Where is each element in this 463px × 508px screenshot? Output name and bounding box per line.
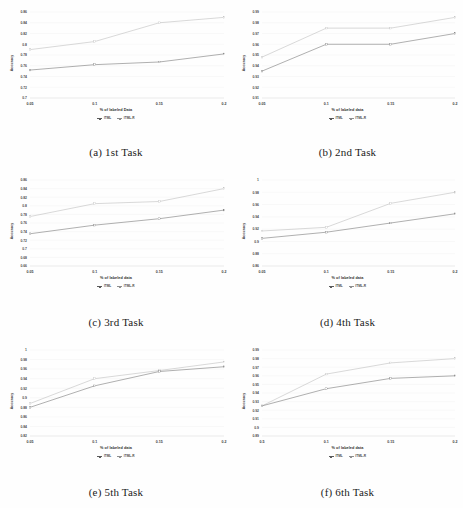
legend-item-itml-r: ITML-R xyxy=(349,284,366,288)
x-tick-label: 0.2 xyxy=(222,102,227,106)
x-axis-label: % of labeled Data xyxy=(0,108,232,112)
series-line-itml-r xyxy=(30,362,224,404)
data-point-marker xyxy=(390,362,392,364)
legend-item-itml-r: ITML-R xyxy=(117,284,134,288)
data-point-marker xyxy=(158,371,160,373)
legend-label: ITML-R xyxy=(124,454,135,458)
data-point-marker xyxy=(261,70,263,72)
x-axis-label: % of labeled data xyxy=(232,108,463,112)
y-tick-label: 0.68 xyxy=(20,256,27,260)
panel-caption: (f) 6th Task xyxy=(232,486,463,498)
legend-label: ITML-R xyxy=(355,284,366,288)
data-point-marker xyxy=(29,216,31,218)
data-point-marker xyxy=(94,378,96,380)
legend-item-itml: ITML xyxy=(329,116,343,120)
x-tick-label: 0.2 xyxy=(222,270,227,274)
x-tick-label: 0.15 xyxy=(387,102,394,106)
x-axis-label: % of labeled data xyxy=(232,276,463,280)
data-point-marker xyxy=(325,27,327,29)
chart-panel-e: 0.820.840.860.880.90.920.940.960.9810.05… xyxy=(0,338,232,508)
x-tick-label: 0.15 xyxy=(156,270,163,274)
y-axis-label: Accuracy xyxy=(242,223,246,239)
y-tick-label: 0.84 xyxy=(20,425,27,429)
x-tick-label: 0.2 xyxy=(453,102,458,106)
legend-swatch-icon xyxy=(117,286,122,287)
x-tick-label: 0.5 xyxy=(260,440,265,444)
y-tick-label: 0.8 xyxy=(22,43,27,47)
series-line-itml-r xyxy=(30,189,224,217)
x-tick-label: 0.05 xyxy=(27,102,34,106)
y-tick-label: 1 xyxy=(25,348,27,352)
chart-legend: ITMLITML-R xyxy=(0,454,232,458)
data-point-marker xyxy=(29,69,31,71)
chart-legend: ITMLITML-R xyxy=(232,116,463,120)
legend-label: ITML-R xyxy=(355,116,366,120)
y-tick-label: 0.94 xyxy=(252,391,259,395)
legend-item-itml: ITML xyxy=(329,284,343,288)
y-tick-label: 0.72 xyxy=(20,86,27,90)
legend-label: ITML xyxy=(104,116,111,120)
data-point-marker xyxy=(29,403,31,405)
x-tick-label: 0.1 xyxy=(324,440,329,444)
legend-item-itml-r: ITML-R xyxy=(117,454,134,458)
data-point-marker xyxy=(390,202,392,204)
legend-label: ITML xyxy=(335,116,342,120)
data-point-marker xyxy=(454,33,456,35)
y-tick-label: 1 xyxy=(257,178,259,182)
x-tick-label: 0.05 xyxy=(259,270,266,274)
legend-item-itml: ITML xyxy=(97,454,111,458)
y-tick-label: 0.99 xyxy=(252,10,259,14)
data-point-marker xyxy=(325,226,327,228)
x-tick-label: 0.1 xyxy=(92,102,97,106)
series-line-itml xyxy=(30,367,224,408)
y-tick-label: 0.95 xyxy=(252,383,259,387)
data-point-marker xyxy=(29,49,31,51)
legend-label: ITML xyxy=(104,284,111,288)
data-point-marker xyxy=(158,22,160,24)
legend-swatch-icon xyxy=(349,286,354,287)
chart-legend: ITMLITML-R xyxy=(232,284,463,288)
y-tick-label: 0.84 xyxy=(20,187,27,191)
data-point-marker xyxy=(390,27,392,29)
y-tick-label: 0.92 xyxy=(252,227,259,231)
data-point-marker xyxy=(158,61,160,63)
x-tick-label: 0.2 xyxy=(222,440,227,444)
data-point-marker xyxy=(29,233,31,235)
y-tick-label: 0.86 xyxy=(20,10,27,14)
plot-area: 0.860.880.90.920.940.960.9810.050.10.150… xyxy=(232,172,463,290)
legend-swatch-icon xyxy=(329,286,334,287)
y-tick-label: 0.94 xyxy=(20,377,27,381)
y-axis-label: Accuracy xyxy=(242,393,246,409)
y-tick-label: 0.92 xyxy=(252,409,259,413)
data-point-marker xyxy=(261,405,263,407)
legend-swatch-icon xyxy=(329,456,334,457)
legend-swatch-icon xyxy=(329,118,334,119)
y-tick-label: 0.98 xyxy=(252,357,259,361)
y-tick-label: 0.96 xyxy=(252,374,259,378)
data-point-marker xyxy=(223,366,225,368)
legend-item-itml: ITML xyxy=(97,284,111,288)
y-tick-label: 0.82 xyxy=(20,196,27,200)
legend-label: ITML-R xyxy=(355,454,366,458)
y-axis-label: Accuracy xyxy=(10,393,14,409)
legend-swatch-icon xyxy=(117,456,122,457)
x-tick-label: 0.05 xyxy=(27,270,34,274)
y-tick-label: 0.7 xyxy=(22,247,27,251)
x-tick-label: 0.15 xyxy=(156,102,163,106)
series-line-itml xyxy=(262,376,455,406)
data-point-marker xyxy=(94,385,96,387)
x-axis-label: % of labeled data xyxy=(232,446,463,450)
data-point-marker xyxy=(29,406,31,408)
y-tick-label: 0.9 xyxy=(254,240,259,244)
y-tick-label: 0.88 xyxy=(20,406,27,410)
x-tick-label: 0.1 xyxy=(324,102,329,106)
series-line-itml-r xyxy=(262,17,455,57)
x-tick-label: 0.15 xyxy=(387,270,394,274)
plot-area: 0.890.90.910.920.930.940.950.960.970.980… xyxy=(232,342,463,460)
legend-swatch-icon xyxy=(349,456,354,457)
y-tick-label: 0.76 xyxy=(20,221,27,225)
y-tick-label: 0.72 xyxy=(20,239,27,243)
legend-item-itml-r: ITML-R xyxy=(117,116,134,120)
series-line-itml xyxy=(30,54,224,70)
x-tick-label: 0.05 xyxy=(27,440,34,444)
